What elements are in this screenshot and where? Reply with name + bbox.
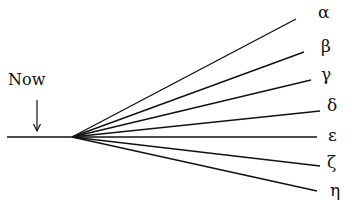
branch-label: η bbox=[330, 182, 340, 199]
branch-line bbox=[72, 137, 317, 191]
branch-label: ζ bbox=[327, 154, 336, 171]
now-label: Now bbox=[8, 72, 45, 88]
branch-line bbox=[72, 19, 296, 137]
branch-label: α bbox=[318, 4, 329, 21]
now-arrow-icon bbox=[34, 100, 41, 131]
branch-line bbox=[72, 80, 311, 137]
branch-label: δ bbox=[327, 97, 337, 114]
branch-line bbox=[72, 137, 320, 166]
branch-label: β bbox=[321, 38, 331, 55]
branch-label: ε bbox=[328, 127, 337, 144]
branching-futures-diagram bbox=[0, 0, 352, 206]
branch-lines bbox=[72, 19, 320, 191]
branch-label: γ bbox=[321, 66, 331, 83]
